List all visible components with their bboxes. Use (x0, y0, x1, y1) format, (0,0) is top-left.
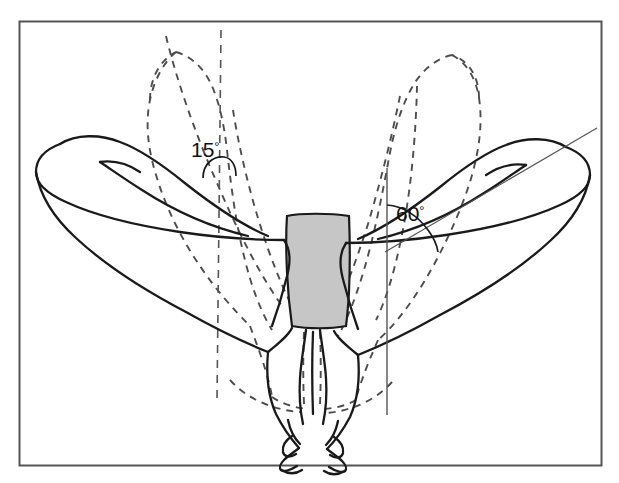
angle-label-60-value: 60 (396, 202, 419, 225)
angle-label-15-degree: ° (214, 139, 219, 154)
angle-label-15-value: 15 (191, 138, 214, 161)
solid-center-detail-mid (312, 332, 313, 414)
figure-root: 15° 60° (0, 0, 619, 483)
angle-label-60-degree: ° (419, 203, 424, 218)
anatomical-diagram-svg: 15° 60° (0, 0, 619, 483)
